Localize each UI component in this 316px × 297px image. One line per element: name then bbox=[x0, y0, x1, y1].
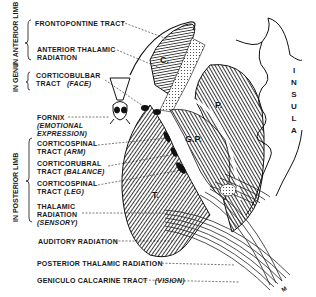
label-corticorubral-note: (BALANCE) bbox=[64, 168, 105, 175]
label-corticobulbar-tract: TRACT bbox=[36, 80, 61, 87]
label-corticospinal-leg-2: TRACT (LEG) bbox=[37, 188, 84, 196]
group-label-anterior-limb: IN ANTERIOR LIMB bbox=[12, 2, 20, 66]
label-auditory-radiation: AUDITORY RADIATION bbox=[38, 238, 118, 246]
label-corticospinal-arm-1: CORTICOSPINAL bbox=[37, 140, 98, 148]
label-fornix-note-1: (EMOTIONAL bbox=[37, 122, 83, 130]
insula-letter: A bbox=[289, 125, 299, 137]
label-corticorubral-1: CORTICORUBRAL bbox=[37, 160, 101, 168]
group-brackets bbox=[25, 20, 32, 222]
label-corticospinal-leg-tract: TRACT bbox=[37, 188, 62, 195]
group-label-posterior-limb: IN POSTERIOR LIMB bbox=[12, 153, 20, 222]
structure-label-globus-pallidus: G.P. bbox=[185, 134, 202, 144]
artist-signature: M bbox=[281, 285, 288, 293]
structure-label-putamen: P. bbox=[215, 100, 222, 110]
label-corticobulbar-2: TRACT (FACE) bbox=[36, 80, 91, 88]
label-fornix: FORNIX bbox=[37, 114, 65, 122]
insula-letter: S bbox=[289, 89, 299, 101]
label-corticospinal-leg-note: (LEG) bbox=[64, 188, 84, 195]
structure-label-thalamus: T. bbox=[152, 190, 159, 200]
label-thalamic-radiation-1: THALAMIC bbox=[37, 203, 75, 211]
structure-label-caudate: C. bbox=[160, 55, 169, 65]
group-label-genu: IN GENU bbox=[12, 63, 20, 92]
label-corticospinal-arm-2: TRACT (ARM) bbox=[37, 148, 85, 156]
label-anterior-thalamic-2: RADIATION bbox=[37, 54, 77, 62]
insula-letter: N bbox=[289, 77, 299, 89]
label-geniculo-calcarine-text: GENICULO CALCARINE TRACT bbox=[37, 277, 148, 284]
label-frontopontine-tract: FRONTOPONTINE TRACT bbox=[35, 20, 125, 28]
label-posterior-thalamic-radiation: POSTERIOR THALAMIC RADIATION bbox=[37, 260, 163, 268]
insula-label: I N S U L A bbox=[289, 65, 299, 137]
lateral-geniculate bbox=[220, 184, 236, 196]
insula-letter: I bbox=[289, 65, 299, 77]
insula-letter: U bbox=[289, 101, 299, 113]
label-corticobulbar-note: (FACE) bbox=[67, 80, 92, 87]
label-geniculo-calcarine-note: (VISION) bbox=[155, 277, 185, 284]
label-corticospinal-arm-tract: TRACT bbox=[37, 148, 62, 155]
label-corticospinal-arm-note: (ARM) bbox=[64, 148, 86, 155]
label-corticospinal-leg-1: CORTICOSPINAL bbox=[37, 180, 98, 188]
insula-letter: L bbox=[289, 113, 299, 125]
label-thalamic-radiation-2: RADIATION bbox=[37, 211, 77, 219]
label-fornix-note-2: EXPRESSION) bbox=[37, 130, 87, 138]
label-anterior-thalamic-1: ANTERIOR THALAMIC bbox=[37, 46, 115, 54]
label-geniculo-calcarine-tract: GENICULO CALCARINE TRACT (VISION) bbox=[37, 277, 185, 285]
label-corticobulbar-1: CORTICOBULBAR bbox=[36, 72, 100, 80]
label-corticorubral-2: TRACT (BALANCE) bbox=[37, 168, 105, 176]
fornix bbox=[110, 78, 130, 124]
label-corticorubral-tract: TRACT bbox=[37, 168, 62, 175]
label-thalamic-radiation-note: (SENSORY) bbox=[37, 219, 78, 227]
